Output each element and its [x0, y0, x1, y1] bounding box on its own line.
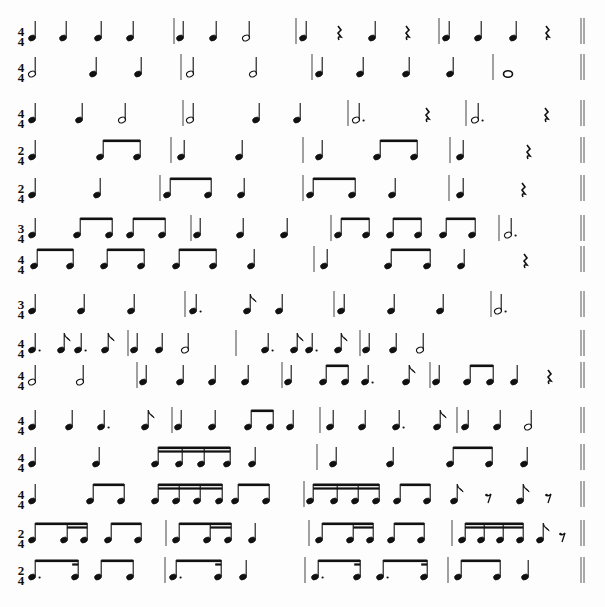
half-note	[28, 365, 37, 386]
eighth-note	[243, 294, 257, 315]
quarter-note	[208, 365, 217, 386]
rhythm-notation	[0, 283, 605, 323]
quarter-note	[356, 57, 365, 78]
beamed-eighths	[319, 365, 350, 386]
beamed-eighths	[454, 560, 502, 581]
final-double-barline	[581, 246, 584, 272]
beamed-eighths	[384, 249, 432, 270]
quarter-note	[28, 178, 37, 199]
quarter-note	[446, 57, 455, 78]
eighth-note	[450, 484, 464, 505]
eighth-note	[101, 333, 115, 354]
quarter-note	[432, 365, 441, 386]
half-note	[28, 57, 37, 78]
quarter-note	[176, 21, 185, 42]
beamed-eighths	[104, 523, 143, 544]
half-note	[181, 333, 190, 354]
quarter-note	[236, 218, 245, 239]
quarter-note	[89, 57, 98, 78]
rhythm-notation	[0, 354, 605, 394]
rhythm-notation	[0, 549, 605, 589]
dotted-quarter-note	[97, 410, 110, 431]
rhythm-line-3: 44	[0, 92, 605, 132]
quarter-note	[209, 21, 218, 42]
quarter-rest	[426, 108, 429, 122]
quarter-note	[509, 21, 518, 42]
dotted-half-note	[504, 218, 517, 239]
quarter-note	[402, 57, 411, 78]
beamed-eighths	[96, 140, 142, 161]
quarter-note	[235, 140, 244, 161]
rhythm-exercise-sheet: 444444242434443444444444442424	[0, 0, 605, 607]
eighth-note	[402, 365, 416, 386]
quarter-note	[126, 21, 135, 42]
beamed-eighths	[73, 218, 114, 239]
quarter-note	[493, 410, 502, 431]
rhythm-line-7: 44	[0, 238, 605, 278]
quarter-note	[28, 484, 37, 505]
beamed-eighths	[163, 178, 213, 199]
rhythm-line-12: 44	[0, 436, 605, 476]
half-note	[186, 103, 195, 124]
whole-note	[504, 71, 513, 78]
quarter-note	[386, 447, 395, 468]
final-double-barline	[581, 54, 584, 80]
quarter-note	[280, 218, 289, 239]
quarter-note	[326, 410, 335, 431]
dotted-half-note	[471, 103, 484, 124]
quarter-note	[520, 447, 529, 468]
beamed-eighths	[126, 218, 167, 239]
eighth-note	[516, 484, 530, 505]
final-double-barline	[581, 330, 584, 356]
eighth-two-sixteenths	[28, 523, 89, 544]
eighth-note	[433, 410, 447, 431]
quarter-note	[28, 447, 37, 468]
rhythm-line-5: 24	[0, 167, 605, 207]
quarter-note	[456, 178, 465, 199]
quarter-rest	[546, 26, 549, 40]
quarter-note	[208, 410, 217, 431]
eighth-rest	[545, 494, 551, 503]
quarter-rest	[406, 26, 409, 40]
half-note	[118, 103, 127, 124]
quarter-note	[457, 249, 466, 270]
quarter-rest	[524, 254, 527, 268]
dotted-quarter-note	[74, 333, 87, 354]
quarter-rest	[338, 26, 341, 40]
beamed-sixteenths	[151, 484, 224, 505]
rhythm-notation	[0, 92, 605, 132]
quarter-note	[521, 560, 530, 581]
final-double-barline	[581, 481, 584, 507]
quarter-note	[389, 333, 398, 354]
quarter-note	[28, 21, 37, 42]
beamed-eighths	[172, 249, 218, 270]
quarter-note	[252, 103, 261, 124]
eighth-rest	[485, 494, 491, 503]
quarter-note	[176, 365, 185, 386]
beamed-eighths	[334, 218, 371, 239]
half-note	[249, 57, 258, 78]
quarter-note	[315, 57, 324, 78]
eighth-note	[536, 523, 550, 544]
beamed-eighths	[30, 249, 75, 270]
quarter-rest	[527, 145, 530, 159]
rhythm-notation	[0, 129, 605, 169]
quarter-note	[248, 523, 257, 544]
rhythm-notation	[0, 512, 605, 552]
eighth-note	[57, 333, 71, 354]
quarter-note	[193, 218, 202, 239]
dotted-half-note	[494, 294, 507, 315]
beamed-eighths	[86, 484, 126, 505]
quarter-note	[442, 21, 451, 42]
quarter-note	[130, 333, 139, 354]
dotted-eighth-sixteenth	[169, 560, 223, 581]
rhythm-notation	[0, 473, 605, 513]
final-double-barline	[581, 137, 584, 163]
quarter-note	[237, 178, 246, 199]
rhythm-notation	[0, 167, 605, 207]
quarter-rest	[522, 183, 525, 197]
final-double-barline	[581, 291, 584, 317]
quarter-note	[59, 21, 68, 42]
dotted-quarter-note	[261, 333, 274, 354]
quarter-note	[275, 294, 284, 315]
